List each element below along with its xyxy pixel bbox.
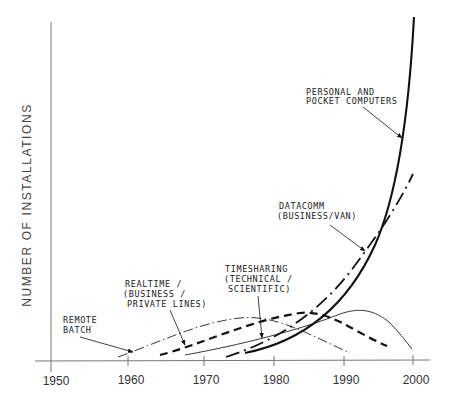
series-personal-pocket (245, 17, 414, 353)
svg-text:PRIVATE LINES): PRIVATE LINES) (127, 299, 207, 309)
x-tick-label: 1980 (263, 373, 290, 387)
svg-text:(TECHNICAL /: (TECHNICAL / (224, 274, 293, 284)
x-tick-label: 1950 (43, 374, 70, 388)
annotation-timesharing: TIMESHARING (TECHNICAL / SCIENTIFIC) (224, 264, 293, 338)
svg-text:(BUSINESS /: (BUSINESS / (123, 289, 186, 299)
svg-text:REMOTE: REMOTE (63, 315, 97, 325)
annotation-realtime: REALTIME / (BUSINESS / PRIVATE LINES) (123, 279, 207, 345)
svg-text:TIMESHARING: TIMESHARING (225, 264, 288, 274)
svg-text:DATACOMM: DATACOMM (279, 201, 325, 211)
x-axis (35, 360, 430, 361)
series-realtime (160, 313, 387, 355)
svg-text:SCIENTIFIC): SCIENTIFIC) (228, 284, 291, 294)
svg-text:REALTIME /: REALTIME / (125, 279, 182, 289)
annotation-personal: PERSONAL AND POCKET COMPUTERS (306, 87, 402, 138)
x-tick-label: 1960 (118, 373, 145, 387)
chart-canvas: 1950 1960 1970 1980 1990 2000 NUMBER OF … (0, 0, 455, 404)
x-tick-label: 2000 (403, 373, 430, 387)
x-tick-label: 1990 (333, 373, 360, 387)
y-axis-label: NUMBER OF INSTALLATIONS (20, 103, 34, 307)
x-tick-label: 1970 (193, 373, 220, 387)
svg-text:BATCH: BATCH (63, 325, 92, 335)
annotation-remote-batch: REMOTE BATCH (63, 315, 133, 352)
svg-text:(BUSINESS/VAN): (BUSINESS/VAN) (277, 211, 357, 221)
annotation-datacomm: DATACOMM (BUSINESS/VAN) (277, 201, 365, 251)
svg-text:POCKET COMPUTERS: POCKET COMPUTERS (306, 96, 397, 106)
